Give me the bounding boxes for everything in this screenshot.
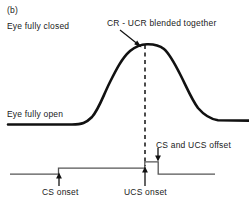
ucs-onset-arrow-head bbox=[142, 167, 148, 173]
eyeblink-conditioning-figure: (b) Eye fully closed Eye fully open CR -… bbox=[0, 0, 249, 202]
cs-onset-arrow-head bbox=[56, 173, 62, 179]
annotation-cs-onset: CS onset bbox=[42, 188, 79, 197]
axis-label-eye-fully-closed: Eye fully closed bbox=[7, 22, 69, 31]
annotation-cs-ucs-offset: CS and UCS offset bbox=[156, 141, 231, 150]
panel-label: (b) bbox=[7, 6, 18, 15]
stimulus-event-trace bbox=[10, 162, 215, 174]
offset-arrow-head bbox=[155, 156, 161, 162]
axis-label-eye-fully-open: Eye fully open bbox=[7, 110, 63, 119]
annotation-cr-ucr-blended: CR - UCR blended together bbox=[107, 19, 216, 28]
annotation-ucs-onset: UCS onset bbox=[124, 188, 167, 197]
